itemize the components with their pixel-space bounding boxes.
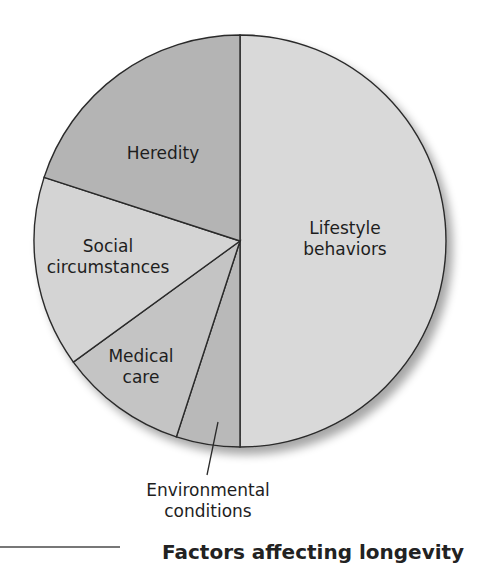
label-lifestyle-line1: Lifestyle <box>303 218 386 239</box>
label-social-line2: circumstances <box>47 257 170 278</box>
label-environment-line2: conditions <box>146 501 270 522</box>
label-heredity: Heredity <box>127 143 200 164</box>
label-medical-line1: Medical <box>108 346 173 367</box>
figure-caption: Factors affecting longevity <box>162 540 464 564</box>
label-environment-line1: Environmental <box>146 480 270 501</box>
caption-rule <box>0 546 120 548</box>
label-medical: Medical care <box>108 346 173 388</box>
label-social: Social circumstances <box>47 236 170 278</box>
label-environment: Environmental conditions <box>146 480 270 522</box>
label-heredity-text: Heredity <box>127 143 200 164</box>
label-medical-line2: care <box>108 367 173 388</box>
label-lifestyle: Lifestyle behaviors <box>303 218 386 260</box>
label-social-line1: Social <box>47 236 170 257</box>
label-lifestyle-line2: behaviors <box>303 239 386 260</box>
